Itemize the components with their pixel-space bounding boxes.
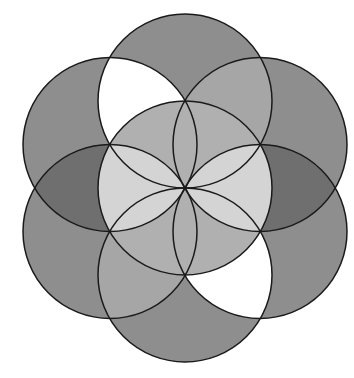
seed-of-life-diagram	[0, 0, 354, 378]
